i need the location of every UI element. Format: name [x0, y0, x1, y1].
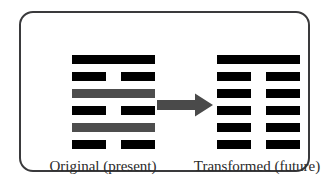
- hex-segment: [266, 89, 300, 98]
- hex-segment: [217, 140, 251, 149]
- transformed-hexagram-caption: Transformed (future): [181, 157, 328, 176]
- hex-line-right-6: [217, 55, 300, 64]
- hex-line-right-3: [217, 106, 300, 115]
- original-hexagram: [72, 55, 155, 149]
- hex-line-right-5: [217, 72, 300, 81]
- hex-line-left-3: [72, 106, 155, 115]
- hex-segment: [72, 106, 106, 115]
- hex-segment: [121, 72, 155, 81]
- hex-segment: [121, 106, 155, 115]
- hex-segment: [266, 140, 300, 149]
- hex-segment: [72, 72, 106, 81]
- figure-frame: Original (present) Transformed (future): [19, 11, 310, 172]
- hex-segment: [217, 123, 251, 132]
- hex-line-right-1: [217, 140, 300, 149]
- hex-segment: [217, 89, 251, 98]
- hexagram-transformation-figure: Original (present) Transformed (future): [0, 0, 328, 184]
- hex-segment: [266, 72, 300, 81]
- hex-line-right-2: [217, 123, 300, 132]
- hex-line-left-2: [72, 123, 155, 132]
- hex-line-left-5: [72, 72, 155, 81]
- hex-line-left-6: [72, 55, 155, 64]
- transformed-hexagram: [217, 55, 300, 149]
- transformation-arrow: [157, 93, 213, 117]
- hex-segment: [266, 123, 300, 132]
- hex-segment: [266, 106, 300, 115]
- hex-line-left-4: [72, 89, 155, 98]
- hex-segment: [121, 140, 155, 149]
- original-hexagram-caption: Original (present): [41, 157, 165, 176]
- hex-segment: [217, 55, 300, 64]
- hex-segment: [217, 106, 251, 115]
- hex-segment: [72, 123, 155, 132]
- hex-line-left-1: [72, 140, 155, 149]
- hex-segment: [217, 72, 251, 81]
- hex-segment: [72, 89, 155, 98]
- hex-segment: [72, 55, 155, 64]
- hex-segment: [72, 140, 106, 149]
- hex-line-right-4: [217, 89, 300, 98]
